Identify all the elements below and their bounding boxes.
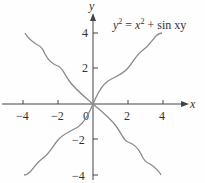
chart-canvas: −4 −2 0 2 4 −4 −2 2 4 x y y2 = x2 + sin … (0, 0, 205, 183)
y-tick-label: 2 (82, 61, 88, 75)
curve-upper-right (93, 33, 162, 104)
implicit-curve-chart: −4 −2 0 2 4 −4 −2 2 4 x y y2 = x2 + sin … (0, 0, 205, 183)
y-tick-label: 4 (82, 26, 88, 40)
x-axis-arrow-icon (181, 101, 189, 107)
equation-label: y2 = x2 + sin xy (112, 17, 186, 32)
y-axis-label: y (88, 0, 95, 13)
y-tick-label: −4 (72, 169, 85, 183)
x-axis-label: x (189, 97, 196, 111)
x-tick-label: 2 (124, 109, 130, 123)
y-tick-label: −2 (72, 133, 85, 147)
y-axis-arrow-icon (90, 13, 96, 21)
x-tick-label: −2 (51, 109, 64, 123)
x-tick-label: −4 (16, 109, 29, 123)
x-tick-label: 4 (159, 109, 165, 123)
